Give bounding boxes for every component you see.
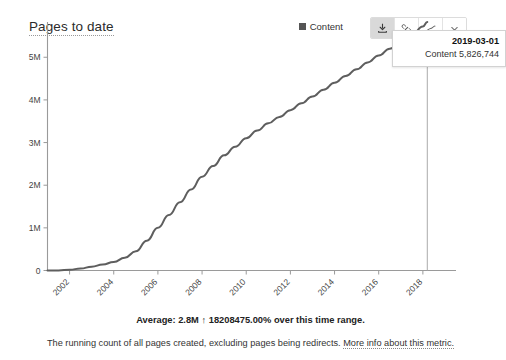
x-tick-label: 2012 xyxy=(271,277,292,298)
summary-average: Average: 2.8M xyxy=(136,315,199,325)
x-tick-label: 2002 xyxy=(51,277,72,298)
x-tick-label: 2018 xyxy=(404,277,425,298)
x-tick-label: 2006 xyxy=(139,277,160,298)
x-tick-label: 2016 xyxy=(360,277,381,298)
trend-up-icon: ↑ xyxy=(201,315,206,325)
x-tick-label: 2010 xyxy=(227,277,248,298)
x-axis xyxy=(48,271,457,275)
description-text: The running count of all pages created, … xyxy=(47,338,341,348)
y-tick-label: 0 xyxy=(36,266,41,276)
chart-summary: Average: 2.8M ↑ 18208475.00% over this t… xyxy=(0,315,501,325)
tooltip-value-row: Content 5,826,744 xyxy=(399,48,499,61)
x-tick-label: 2008 xyxy=(183,277,204,298)
tooltip-date: 2019-03-01 xyxy=(399,35,499,48)
summary-change: 18208475.00% xyxy=(209,315,272,325)
chart-tooltip: 2019-03-01 Content 5,826,744 xyxy=(392,30,506,67)
chart-description: The running count of all pages created, … xyxy=(0,338,501,348)
y-tick-label: 1M xyxy=(29,223,41,233)
y-tick-label: 5M xyxy=(29,52,41,62)
more-info-link[interactable]: More info about this metric. xyxy=(343,338,454,349)
x-tick-label: 2004 xyxy=(95,277,116,298)
x-axis-ticks xyxy=(70,271,423,275)
y-tick-label: 4M xyxy=(29,95,41,105)
y-axis-ticks: 01M2M3M4M5M xyxy=(29,52,48,275)
y-tick-label: 2M xyxy=(29,180,41,190)
series-line-content xyxy=(48,22,428,271)
summary-suffix: over this time range. xyxy=(274,315,365,325)
x-axis-tick-labels: 200220042006200820102012201420162018 xyxy=(51,277,425,298)
tooltip-series-label: Content xyxy=(425,49,457,59)
tooltip-value: 5,826,744 xyxy=(459,49,499,59)
y-axis: 01M2M3M4M5M xyxy=(29,22,48,276)
y-tick-label: 3M xyxy=(29,138,41,148)
x-tick-label: 2014 xyxy=(316,277,337,298)
